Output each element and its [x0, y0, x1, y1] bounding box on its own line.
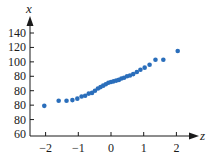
x-tick-label: −2	[39, 141, 52, 155]
data-point	[175, 49, 180, 54]
y-axis-label: x	[25, 1, 32, 16]
data-point	[70, 98, 75, 103]
data-point	[153, 57, 158, 62]
x-axis-arrow-icon	[189, 133, 199, 140]
y-tick-label: 80	[14, 84, 26, 98]
normal-quantile-scatter-chart: x 6080808080100120140 z −2−1012	[0, 0, 209, 158]
x-tick-label: −1	[72, 141, 85, 155]
y-axis: x 6080808080100120140	[8, 1, 34, 141]
data-points	[42, 49, 180, 108]
x-tick-label: 2	[173, 141, 179, 155]
x-axis-label: z	[199, 128, 205, 143]
y-tick-label: 80	[14, 98, 26, 112]
x-axis: z −2−1012	[30, 128, 205, 155]
data-point	[138, 67, 143, 72]
x-tick-label: 0	[108, 141, 114, 155]
y-tick-label: 80	[14, 113, 26, 127]
x-tick-label: 1	[141, 141, 147, 155]
data-point	[64, 99, 69, 104]
data-point	[147, 62, 152, 67]
x-ticks: −2−1012	[39, 132, 179, 155]
y-axis-arrow-icon	[27, 16, 34, 26]
y-tick-label: 80	[14, 69, 26, 83]
y-tick-label: 140	[8, 26, 26, 40]
y-tick-label: 60	[14, 127, 26, 141]
y-tick-label: 100	[8, 55, 26, 69]
data-point	[42, 104, 47, 109]
data-point	[56, 99, 61, 104]
data-point	[161, 57, 166, 62]
data-point	[75, 96, 80, 101]
data-point	[142, 65, 147, 70]
y-tick-label: 120	[8, 40, 26, 54]
